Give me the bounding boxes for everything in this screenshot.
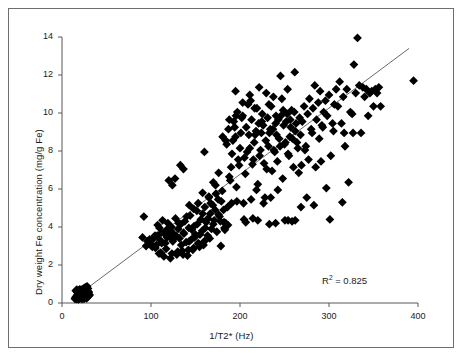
data-point — [262, 89, 271, 98]
data-point — [332, 85, 341, 94]
data-point — [247, 195, 256, 204]
x-axis-title: 1/T2* (Hz) — [0, 330, 463, 341]
data-point — [302, 193, 311, 202]
data-point — [242, 123, 251, 132]
data-point — [232, 183, 241, 192]
r-squared-annotation: R2 = 0.825 — [322, 274, 367, 286]
data-point — [315, 134, 324, 143]
y-tick-label: 12 — [31, 69, 53, 79]
data-point — [269, 92, 278, 101]
data-point — [311, 163, 320, 172]
x-tick-label: 0 — [47, 311, 77, 321]
data-point — [227, 163, 236, 172]
data-point — [303, 110, 312, 119]
y-tick-label: 4 — [31, 221, 53, 231]
data-point — [241, 169, 250, 178]
data-point — [309, 201, 318, 210]
data-point — [312, 115, 321, 124]
data-point — [290, 68, 299, 77]
data-point — [293, 144, 302, 153]
axis-lines — [62, 37, 418, 303]
data-point — [245, 91, 254, 100]
x-tick-label: 300 — [314, 311, 344, 321]
data-point — [235, 161, 244, 170]
data-point — [265, 220, 274, 229]
data-point — [364, 111, 373, 120]
r-symbol: R — [322, 275, 329, 286]
data-point — [341, 142, 350, 151]
y-tick-label: 8 — [31, 145, 53, 155]
scatter-plot-canvas — [0, 0, 463, 357]
data-point — [231, 87, 240, 96]
data-point — [335, 77, 344, 86]
tick-marks — [58, 37, 418, 307]
data-point — [329, 127, 338, 136]
y-tick-label: 10 — [31, 107, 53, 117]
data-point — [309, 104, 318, 113]
scatter-points — [71, 34, 418, 304]
y-tick-label: 0 — [31, 297, 53, 307]
data-point — [278, 174, 287, 183]
data-point — [349, 129, 358, 138]
data-point — [216, 242, 225, 251]
x-tick-label: 400 — [403, 311, 433, 321]
data-point — [256, 146, 265, 155]
data-point — [228, 149, 237, 158]
data-point — [328, 119, 337, 128]
y-tick-label: 2 — [31, 259, 53, 269]
figure-root: Dry weight Fe concentration (mg/g Fe) 1/… — [0, 0, 463, 357]
data-point — [353, 34, 362, 43]
data-point — [337, 119, 346, 128]
data-point — [273, 186, 282, 195]
y-tick-label: 6 — [31, 183, 53, 193]
data-point — [344, 178, 353, 187]
data-point — [326, 151, 335, 160]
data-point — [297, 161, 306, 170]
data-point — [200, 148, 209, 157]
data-point — [304, 155, 313, 164]
data-point — [325, 215, 334, 224]
x-tick-label: 200 — [225, 311, 255, 321]
data-point — [316, 87, 325, 96]
data-point — [317, 157, 326, 166]
data-point — [350, 60, 359, 69]
data-point — [273, 157, 282, 166]
data-point — [297, 203, 306, 212]
data-point — [276, 72, 285, 81]
data-point — [266, 193, 275, 202]
data-point — [139, 212, 148, 221]
data-point — [239, 199, 248, 208]
data-point — [338, 198, 347, 207]
data-point — [310, 81, 319, 90]
data-point — [300, 102, 309, 111]
data-point — [322, 184, 331, 193]
data-point — [357, 129, 366, 138]
data-point — [247, 115, 256, 124]
data-point — [305, 94, 314, 103]
data-point — [289, 163, 298, 172]
data-point — [376, 102, 385, 111]
data-point — [236, 144, 245, 153]
data-point — [277, 94, 286, 103]
data-point — [255, 83, 264, 92]
r-value: = 0.825 — [333, 275, 368, 286]
data-point — [409, 76, 418, 85]
data-point — [214, 168, 223, 177]
y-tick-label: 14 — [31, 31, 53, 41]
data-point — [294, 168, 303, 177]
data-point — [314, 98, 323, 107]
data-point — [340, 129, 349, 138]
x-tick-label: 100 — [136, 311, 166, 321]
data-point — [283, 85, 292, 94]
